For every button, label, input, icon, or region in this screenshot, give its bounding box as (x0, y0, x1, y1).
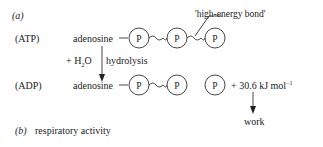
high-energy-bond-squiggle (149, 83, 167, 87)
phosphate-p: P (136, 81, 141, 91)
phosphate-p: P (136, 34, 141, 44)
phosphate-p: P (174, 34, 179, 44)
hydrolysis-arrow-head (99, 74, 105, 82)
free-phosphate-p: P (212, 81, 217, 91)
atp-adp-diagram: P P P P P P (0, 0, 323, 147)
high-energy-bond-squiggle (187, 36, 205, 40)
work-arrow-head (250, 106, 256, 114)
high-energy-bond-squiggle (149, 36, 167, 40)
phosphate-p: P (212, 34, 217, 44)
phosphate-p: P (174, 81, 179, 91)
